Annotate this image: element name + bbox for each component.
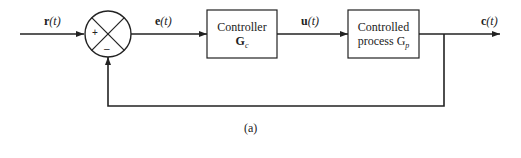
output-signal-label: c(t) [481,14,498,29]
plus-sign: + [92,27,98,38]
process-title: Controlled [348,20,419,34]
process-block-label: Controlled process Gp [348,20,419,53]
block-diagram: r(t) e(t) u(t) c(t) + – Controller Gc Co… [0,0,521,158]
control-signal-name: u [301,14,308,28]
control-signal-label: u(t) [301,14,319,29]
error-signal-label: e(t) [155,14,172,29]
controller-block-label: Controller Gc [207,20,277,53]
process-transfer-function: process Gp [348,34,419,53]
controller-title: Controller [207,20,277,34]
control-signal-arg: (t) [308,14,319,28]
error-signal-arg: (t) [160,14,171,28]
reference-signal-label: r(t) [44,14,61,29]
controller-transfer-function: Gc [207,34,277,53]
reference-signal-arg: (t) [49,14,60,28]
figure-caption: (a) [244,121,257,136]
minus-sign: – [104,43,110,54]
output-signal-arg: (t) [486,14,497,28]
